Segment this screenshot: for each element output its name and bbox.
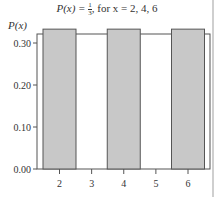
x-tick-label: 4	[121, 178, 126, 189]
bar-x-2	[43, 29, 76, 169]
x-tick-label: 5	[153, 178, 158, 189]
x-tick-label: 3	[89, 178, 94, 189]
x-tick-label: 2	[57, 178, 62, 189]
x-tick-label: 6	[186, 178, 191, 189]
bar-chart: 0.000.100.200.3023456	[0, 0, 214, 197]
y-tick-label: 0.30	[14, 38, 32, 49]
bar-x-6	[172, 29, 205, 169]
y-tick-label: 0.20	[14, 80, 32, 91]
bar-x-4	[107, 29, 140, 169]
image-edge	[212, 0, 214, 197]
y-tick-label: 0.00	[14, 164, 32, 175]
y-tick-label: 0.10	[14, 122, 32, 133]
